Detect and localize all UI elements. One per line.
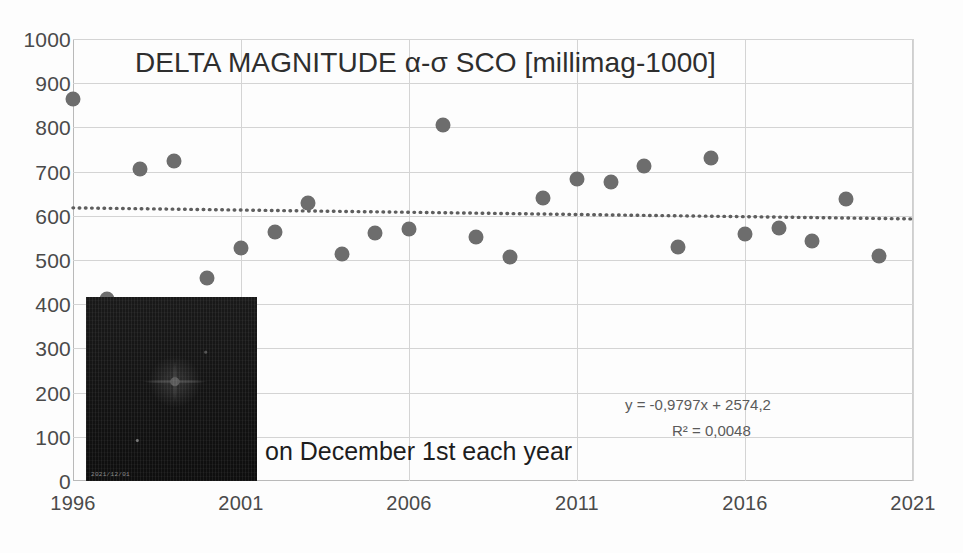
x-axis-tick-label: 2006 <box>369 492 449 515</box>
trendline-r-squared: R² = 0,0048 <box>672 422 751 439</box>
x-axis-tick-label: 2001 <box>201 492 281 515</box>
data-point <box>469 229 484 244</box>
photo-timestamp: 2021/12/01 <box>91 471 130 478</box>
y-axis-tick-label: 300 <box>9 338 71 359</box>
data-point <box>368 226 383 241</box>
x-axis-tick-label: 2021 <box>873 492 953 515</box>
y-axis-tick-label: 900 <box>9 73 71 94</box>
data-point <box>872 248 887 263</box>
gridline-x <box>913 39 914 481</box>
data-point <box>838 192 853 207</box>
data-point <box>301 196 316 211</box>
data-point <box>536 190 551 205</box>
data-point <box>738 226 753 241</box>
y-axis-tick-labels: 01002003004005006007008009001000 <box>0 0 71 553</box>
data-point <box>805 233 820 248</box>
x-axis-tick-label: 1996 <box>33 492 113 515</box>
data-point <box>570 172 585 187</box>
y-axis-tick-label: 700 <box>9 161 71 182</box>
y-axis-tick-label: 100 <box>9 426 71 447</box>
data-point <box>267 225 282 240</box>
data-point <box>334 246 349 261</box>
y-axis-tick-label: 800 <box>9 117 71 138</box>
data-point <box>603 175 618 190</box>
photo-content <box>86 297 257 481</box>
data-point <box>402 222 417 237</box>
data-point <box>133 162 148 177</box>
data-point <box>200 270 215 285</box>
chart-title: DELTA MAGNITUDE α-σ SCO [millimag-1000] <box>135 47 716 79</box>
data-point <box>771 220 786 235</box>
data-point <box>704 151 719 166</box>
y-axis-tick-label: 1000 <box>9 29 71 50</box>
y-axis-tick-label: 600 <box>9 205 71 226</box>
embedded-photo: 2021/12/01 <box>86 297 257 481</box>
y-axis-tick-label: 500 <box>9 250 71 271</box>
data-point <box>166 154 181 169</box>
chart-screenshot: 01002003004005006007008009001000 2021/12… <box>0 0 963 553</box>
x-axis-tick-label: 2016 <box>705 492 785 515</box>
y-axis-tick-label: 200 <box>9 382 71 403</box>
y-axis-tick-label: 400 <box>9 294 71 315</box>
data-point <box>435 117 450 132</box>
data-point <box>637 158 652 173</box>
y-axis-tick-label: 0 <box>9 471 71 492</box>
data-point <box>670 239 685 254</box>
chart-caption: on December 1st each year <box>265 437 572 466</box>
trendline-equation: y = -0,9797x + 2574,2 <box>625 396 771 413</box>
data-point <box>66 91 81 106</box>
data-point <box>502 250 517 265</box>
x-axis-tick-label: 2011 <box>537 492 617 515</box>
data-point <box>234 241 249 256</box>
